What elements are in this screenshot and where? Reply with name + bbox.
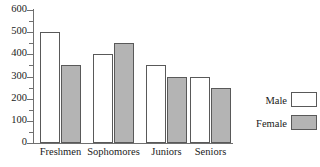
y-tick-minor-550 <box>29 21 34 22</box>
legend-swatch-male <box>291 92 317 107</box>
bar-freshmen-male <box>40 32 60 143</box>
bar-juniors-male <box>146 65 166 143</box>
chart-legend: Male Female <box>243 92 317 138</box>
y-tick-400 <box>27 54 34 55</box>
y-tick-minor-450 <box>29 43 34 44</box>
legend-label-male: Male <box>265 95 287 107</box>
y-axis-label-400: 400 <box>0 48 27 58</box>
y-tick-200 <box>27 99 34 100</box>
y-axis-label-0: 0 <box>0 137 27 147</box>
bar-group-sophomores <box>93 10 134 143</box>
legend-label-female: Female <box>256 118 287 130</box>
bar-sophomores-female <box>114 43 134 143</box>
y-tick-minor-250 <box>29 88 34 89</box>
y-tick-minor-50 <box>29 132 34 133</box>
bar-group-juniors <box>146 10 187 143</box>
bar-freshmen-female <box>61 65 81 143</box>
legend-item-female: Female <box>243 115 317 134</box>
y-axis-label-600: 600 <box>0 4 27 14</box>
bar-group-seniors <box>190 10 231 143</box>
bar-chart: 0100200300400500600 FreshmenSophomoresJu… <box>0 0 320 167</box>
bar-seniors-male <box>190 77 210 144</box>
bar-seniors-female <box>211 88 231 143</box>
y-axis-label-500: 500 <box>0 26 27 36</box>
x-axis-line <box>33 143 233 144</box>
bar-juniors-female <box>167 77 187 144</box>
y-tick-600 <box>27 10 34 11</box>
y-tick-minor-350 <box>29 65 34 66</box>
y-tick-0 <box>27 143 34 144</box>
y-axis-label-300: 300 <box>0 71 27 81</box>
y-tick-500 <box>27 32 34 33</box>
legend-item-male: Male <box>243 92 317 111</box>
bar-group-freshmen <box>40 10 81 143</box>
x-axis-label-seniors: Seniors <box>174 146 247 158</box>
bar-sophomores-male <box>93 54 113 143</box>
y-axis-label-100: 100 <box>0 115 27 125</box>
y-axis-label-200: 200 <box>0 93 27 103</box>
legend-swatch-female <box>291 115 317 130</box>
y-tick-100 <box>27 121 34 122</box>
y-tick-300 <box>27 77 34 78</box>
y-tick-minor-150 <box>29 110 34 111</box>
